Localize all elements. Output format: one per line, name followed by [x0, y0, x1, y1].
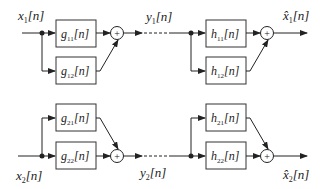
svg-text:+: + [114, 28, 120, 39]
wire-y1-to-h12 [191, 33, 205, 71]
block-g11: g11[n] [56, 20, 96, 47]
wire-h12-cross-to-sum2 [246, 118, 268, 149]
block-g12: g12[n] [56, 57, 96, 84]
svg-text:g22[n]: g22[n] [61, 149, 90, 165]
output-label-xhat1: x̂1[n] [282, 8, 309, 25]
wire-x1-to-g12 [42, 33, 55, 71]
svg-text:h21[n]: h21[n] [211, 111, 240, 127]
summer-xhat1: + [261, 27, 274, 40]
summer-xhat2: + [261, 150, 274, 163]
block-g21: g21[n] [56, 104, 96, 131]
svg-text:g11[n]: g11[n] [61, 27, 89, 43]
wire-y2-to-h21 [191, 118, 205, 156]
wire-g12-cross-to-sum2 [96, 118, 118, 149]
block-h12: h12[n] [206, 57, 246, 84]
svg-text:h11[n]: h11[n] [211, 27, 239, 43]
svg-text:h12[n]: h12[n] [211, 64, 240, 80]
channel-label-y1: y1[n] [144, 9, 172, 26]
mimo-filter-bank-diagram: x1[n] x2[n] y1[n] y2[n] x̂1[n] x̂2[n] g1… [0, 0, 326, 189]
wire-h21-cross-to-sum1 [246, 40, 268, 71]
svg-text:+: + [264, 28, 270, 39]
channel-label-y2: y2[n] [138, 165, 166, 182]
input-label-x2: x2[n] [15, 168, 42, 185]
summer-y2: + [111, 150, 124, 163]
wire-x2-to-g21 [42, 118, 55, 156]
block-h22: h22[n] [206, 142, 246, 169]
svg-text:+: + [264, 151, 270, 162]
input-label-x1: x1[n] [17, 8, 44, 25]
block-g22: g22[n] [56, 142, 96, 169]
svg-text:g21[n]: g21[n] [61, 111, 90, 127]
svg-text:h22[n]: h22[n] [211, 149, 240, 165]
svg-text:g12[n]: g12[n] [61, 64, 90, 80]
output-label-xhat2: x̂2[n] [282, 167, 309, 184]
block-h11: h11[n] [206, 20, 246, 47]
wire-g21-cross-to-sum1 [96, 40, 118, 71]
summer-y1: + [111, 27, 124, 40]
block-h21: h21[n] [206, 104, 246, 131]
svg-text:+: + [114, 151, 120, 162]
